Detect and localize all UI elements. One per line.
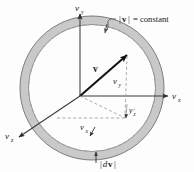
shell-magnitude-bar-open: |	[119, 14, 121, 24]
spherical-shell	[0, 0, 194, 172]
component-vy-label-sub: y	[118, 82, 122, 88]
thickness-label: | d v |	[100, 159, 116, 169]
axis-vx-label-sub: x	[177, 97, 181, 103]
component-vy-label-main: v	[113, 76, 117, 86]
axis-vy-label-main: v	[75, 3, 79, 13]
vector-v-label: v	[93, 64, 98, 74]
figure-container: v y v x v z v v y v z v x	[0, 0, 194, 172]
component-vz-label-sub: z	[133, 111, 136, 117]
shell-magnitude-v: v	[122, 14, 127, 24]
shell-magnitude-equals: = constant	[133, 14, 169, 24]
component-vx-label-sub: x	[85, 128, 89, 134]
component-vx-label-main: v	[80, 122, 84, 132]
axis-vz-label-main: v	[5, 131, 9, 141]
thickness-bar-open: |	[100, 159, 102, 169]
axis-vx-label-main: v	[172, 91, 176, 101]
velocity-space-diagram: v y v x v z v v y v z v x	[0, 0, 194, 172]
thickness-bar-close: |	[114, 159, 116, 169]
thickness-v: v	[108, 159, 113, 169]
axis-vy-label-sub: y	[80, 9, 84, 15]
shell-magnitude-bar-close: |	[128, 14, 130, 24]
